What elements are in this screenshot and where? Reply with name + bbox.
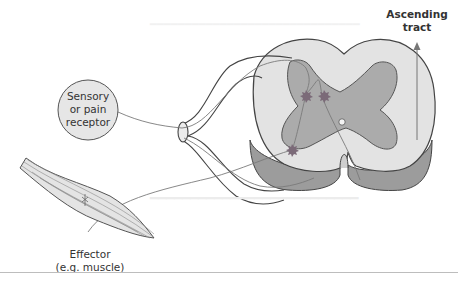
effector-label-line: Effector [50, 248, 130, 261]
receptor-label-line: or pain [60, 103, 116, 116]
reflex-arc-figure: ━━━━━━━━━━━━━━━━━━━━━━━━━━━━━━ ━━━━━━━━━… [0, 0, 458, 289]
spinal-cord [250, 39, 435, 190]
receptor-label-line: receptor [60, 116, 116, 129]
receptor-label-line: Sensory [60, 90, 116, 103]
page-divider [0, 272, 458, 273]
effector-label: Effector (e.g. muscle) [50, 248, 130, 274]
ascending-tract-label: Ascending tract [385, 8, 449, 34]
tract-label-line: tract [385, 21, 449, 34]
tract-label-line: Ascending [385, 8, 449, 21]
effector-muscle [20, 158, 154, 238]
bleed-through-text: ━━━━━━━━━━━━━━━━━━━━━━━━━━ [150, 190, 358, 207]
bleed-through-text: ━━━━━━━━━━━━━━━━━━━━━━━━━━━━━━ [150, 18, 360, 31]
receptor-label: Sensory or pain receptor [60, 90, 116, 129]
diagram-canvas [0, 0, 458, 289]
